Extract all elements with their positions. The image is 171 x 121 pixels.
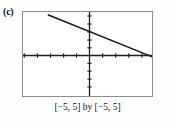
part-label: (c) (3, 6, 14, 18)
graphing-calculator-screen (22, 11, 153, 97)
plot-svg (23, 12, 152, 96)
axes-group (23, 12, 152, 96)
figure-panel-c: (c) (0, 0, 171, 121)
viewing-window-caption: [−5, 5] by [−5, 5] (22, 101, 153, 114)
plotted-line-group (49, 15, 153, 57)
plotted-line (49, 15, 153, 57)
